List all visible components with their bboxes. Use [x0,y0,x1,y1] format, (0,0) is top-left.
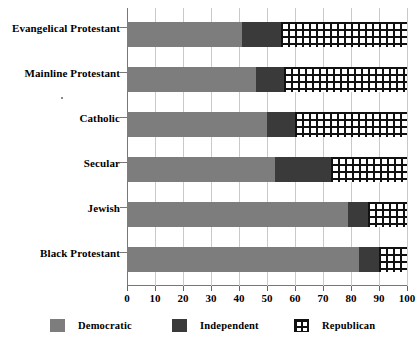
bar-segment-republican [368,202,407,227]
x-axis-tick-label: 0 [113,292,141,305]
y-axis-label-evangelical-protestant: Evangelical Protestant [0,22,120,34]
legend-item-independent: Independent [172,316,259,334]
x-axis-tick [351,286,352,291]
x-axis-tick [239,286,240,291]
bar-segment-democratic [127,22,242,47]
x-axis-tick [267,286,268,291]
y-axis-tick [120,162,127,163]
legend-label-republican: Republican [322,320,375,331]
x-axis-tick-label: 90 [365,292,393,305]
gridline [323,8,324,286]
x-axis-tick-label: 30 [197,292,225,305]
legend-label-independent: Independent [200,320,259,331]
y-axis-label-jewish: Jewish [0,202,120,214]
bar-segment-democratic [127,112,267,137]
y-axis-ticks [120,8,127,286]
bar-segment-independent [256,67,284,92]
democratic-swatch-icon [50,319,65,332]
bar-segment-republican [295,112,407,137]
bar-segment-democratic [127,247,359,272]
gridline [267,8,268,286]
bar-row [127,112,407,137]
bar-row [127,22,407,47]
gridline [155,8,156,286]
x-axis-tick [323,286,324,291]
x-axis: 0102030405060708090100 [127,286,407,308]
x-axis-tick-label: 80 [337,292,365,305]
legend-item-republican: Republican [294,316,375,334]
gridline [239,8,240,286]
bar-segment-independent [348,202,368,227]
y-axis-tick [120,207,127,208]
x-axis-tick-label: 40 [225,292,253,305]
bar-segment-republican [281,22,407,47]
bar-segment-democratic [127,202,348,227]
bar-segment-republican [331,157,407,182]
y-axis-line [127,8,128,286]
bar-segment-independent [242,22,281,47]
y-axis-label-catholic: Catholic [0,112,120,124]
bar-row [127,247,407,272]
scan-speck [61,97,63,99]
legend-item-democratic: Democratic [50,316,132,334]
chart-legend: Democratic Independent Republican [0,316,417,342]
bar-row [127,67,407,92]
x-axis-tick [211,286,212,291]
plot-area [127,8,407,286]
x-axis-tick [295,286,296,291]
legend-label-democratic: Democratic [78,320,132,331]
y-axis-tick [120,27,127,28]
bar-row [127,202,407,227]
bar-segment-independent [275,157,331,182]
bar-segment-democratic [127,67,256,92]
gridline [351,8,352,286]
gridline [407,8,408,286]
y-axis-label-secular: Secular [0,157,120,169]
x-axis-tick [379,286,380,291]
bar-segment-republican [284,67,407,92]
y-axis-labels: Evangelical Protestant Mainline Protesta… [0,8,120,286]
x-axis-tick-label: 60 [281,292,309,305]
gridline [183,8,184,286]
gridline [379,8,380,286]
x-axis-tick [183,286,184,291]
x-axis-tick-label: 10 [141,292,169,305]
bar-segment-democratic [127,157,275,182]
x-axis-tick-label: 70 [309,292,337,305]
x-axis-tick-label: 20 [169,292,197,305]
stacked-bar-chart: Evangelical Protestant Mainline Protesta… [0,0,417,347]
y-axis-tick [120,252,127,253]
x-axis-tick [407,286,408,291]
x-axis-tick [127,286,128,291]
x-axis-tick-label: 100 [393,292,417,305]
gridline [295,8,296,286]
independent-swatch-icon [172,319,187,332]
x-axis-tick [155,286,156,291]
y-axis-label-mainline-protestant: Mainline Protestant [0,67,120,79]
gridline [211,8,212,286]
bar-segment-independent [359,247,379,272]
bar-segment-republican [379,247,407,272]
republican-swatch-icon [294,319,309,332]
bar-row [127,157,407,182]
y-axis-tick [120,72,127,73]
y-axis-label-black-protestant: Black Protestant [0,247,120,259]
x-axis-tick-label: 50 [253,292,281,305]
bar-segment-independent [267,112,295,137]
y-axis-tick [120,117,127,118]
